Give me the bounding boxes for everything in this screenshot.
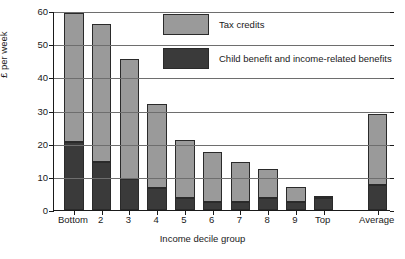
y-axis-tick — [49, 211, 54, 212]
bar-segment — [147, 188, 166, 210]
bar-segment — [368, 114, 387, 185]
plot-area — [53, 12, 390, 211]
bar-segment — [258, 198, 277, 210]
legend-swatch-tax-credits — [163, 14, 209, 35]
y-axis-tick-right — [390, 12, 394, 13]
bar-7 — [231, 11, 250, 210]
y-axis-title: £ per week — [0, 32, 9, 78]
bar-segment — [258, 169, 277, 199]
legend-label-child-benefit: Child benefit and income-related benefit… — [219, 53, 392, 64]
y-axis-tick — [49, 45, 54, 46]
bar-6 — [203, 11, 222, 210]
bar-segment — [368, 185, 387, 210]
y-axis-tick — [49, 12, 54, 13]
bar-segment — [314, 196, 333, 198]
bar-segment — [175, 140, 194, 198]
stacked-bar-chart: £ per week 0102030405060 Bottom23456789T… — [0, 0, 405, 259]
gridline — [54, 12, 390, 13]
x-axis-tick-label: Average — [349, 215, 405, 225]
bar-segment — [286, 187, 305, 202]
bar-4 — [147, 11, 166, 210]
bar-average — [368, 11, 387, 210]
gridline — [54, 112, 390, 113]
bar-bottom — [64, 11, 83, 210]
gridline — [54, 45, 390, 46]
x-axis-tick-label: Top — [295, 215, 351, 225]
y-axis-tick — [49, 145, 54, 146]
bar-segment — [203, 202, 222, 210]
bar-segment — [314, 198, 333, 210]
bar-3 — [120, 11, 139, 210]
bar-8 — [258, 11, 277, 210]
gridline — [54, 178, 390, 179]
y-axis-tick-label: 50 — [24, 40, 48, 50]
bar-segment — [120, 179, 139, 211]
gridline — [54, 78, 390, 79]
y-axis-tick-label: 10 — [24, 173, 48, 183]
bar-segment — [92, 162, 111, 210]
y-axis-tick-right — [390, 145, 394, 146]
y-axis-tick-right — [390, 211, 394, 212]
bar-segment — [286, 202, 305, 210]
y-axis-tick-label: 40 — [24, 73, 48, 83]
gridline — [54, 145, 390, 146]
bar-top — [314, 11, 333, 210]
legend-swatch-child-benefit — [163, 48, 209, 69]
x-axis-title: Income decile group — [0, 233, 405, 244]
y-axis-tick-label: 30 — [24, 107, 48, 117]
legend-label-tax-credits: Tax credits — [219, 19, 264, 30]
bar-segment — [231, 162, 250, 202]
bar-segment — [231, 202, 250, 210]
bar-segment — [120, 59, 139, 178]
y-axis-tick — [49, 78, 54, 79]
y-axis-tick-right — [390, 45, 394, 46]
bar-2 — [92, 11, 111, 210]
bar-segment — [64, 142, 83, 210]
bar-segment — [147, 104, 166, 189]
y-axis-tick — [49, 178, 54, 179]
bar-9 — [286, 11, 305, 210]
y-axis-tick-label: 60 — [24, 7, 48, 17]
bar-segment — [175, 198, 194, 210]
y-axis-tick-right — [390, 112, 394, 113]
y-axis-tick-label: 20 — [24, 140, 48, 150]
y-axis-tick-right — [390, 178, 394, 179]
bar-5 — [175, 11, 194, 210]
y-axis-tick — [49, 112, 54, 113]
y-axis-tick-right — [390, 78, 394, 79]
